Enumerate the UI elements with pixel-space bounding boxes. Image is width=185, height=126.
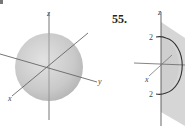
tick-label-top: 2 <box>149 33 153 42</box>
sphere-figure: z y x <box>0 0 102 120</box>
x-axis-label: x <box>144 75 149 84</box>
z-axis-label: z <box>46 9 51 18</box>
x-axis-label: x <box>7 94 12 103</box>
cropped-mark <box>0 0 3 4</box>
problem-number: 55. <box>112 12 127 26</box>
figure-canvas: z y x 55. z 2 x 2 <box>0 0 185 126</box>
y-axis-label: y <box>97 77 102 86</box>
tick-label-bottom: 2 <box>149 90 153 99</box>
half-disk-figure: 55. z 2 x 2 <box>112 8 185 126</box>
